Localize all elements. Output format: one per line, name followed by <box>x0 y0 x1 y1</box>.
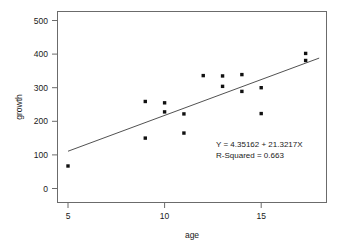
data-point <box>202 74 205 77</box>
chart-background <box>0 0 345 252</box>
x-axis-title: age <box>185 230 199 240</box>
data-point <box>260 86 263 89</box>
x-tick-label: 15 <box>256 211 266 221</box>
data-point <box>182 131 185 134</box>
data-point <box>182 112 185 115</box>
y-tick-label: 100 <box>34 150 48 160</box>
data-point <box>260 112 263 115</box>
data-point <box>304 52 307 55</box>
data-point <box>240 73 243 76</box>
data-point <box>163 101 166 104</box>
data-point <box>163 110 166 113</box>
data-point <box>221 85 224 88</box>
regression-scatter-chart: 500 400 300 200 100 0 growth 5 10 15 age… <box>0 0 345 252</box>
y-tick-label: 0 <box>43 184 48 194</box>
r-squared-text: R-Squared = 0.663 <box>216 151 284 160</box>
y-tick-label: 400 <box>34 49 48 59</box>
y-tick-label: 300 <box>34 83 48 93</box>
regression-equation-text: Y = 4.35162 + 21.3217X <box>216 140 303 149</box>
y-tick-label: 500 <box>34 16 48 26</box>
y-tick-label: 200 <box>34 116 48 126</box>
data-point <box>221 74 224 77</box>
y-axis-title: growth <box>14 94 24 120</box>
x-tick-label: 10 <box>160 211 170 221</box>
data-point <box>66 164 69 167</box>
data-point <box>240 90 243 93</box>
data-point <box>304 59 307 62</box>
scatter-plot-screenshot: 500 400 300 200 100 0 growth 5 10 15 age… <box>0 0 345 252</box>
x-tick-label: 5 <box>66 211 71 221</box>
data-point <box>144 136 147 139</box>
data-point <box>144 100 147 103</box>
